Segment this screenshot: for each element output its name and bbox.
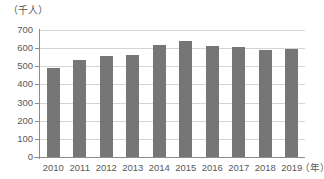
bar <box>47 68 60 157</box>
y-axis-tick-label: 200 <box>1 116 33 126</box>
y-axis-tick-mark <box>35 139 40 140</box>
x-axis-unit-label: （年） <box>300 162 324 173</box>
bar-chart: （千人） 0100200300400500600700 201020112012… <box>0 0 324 179</box>
bar <box>100 56 113 157</box>
y-axis-tick-label: 700 <box>1 25 33 35</box>
y-axis-tick-label-group: 0100200300400500600700 <box>0 0 33 179</box>
y-axis-tick-mark <box>35 84 40 85</box>
x-axis-tick-label-group: 2010201120122013201420152016201720182019 <box>40 162 305 176</box>
y-axis-tick-mark <box>35 66 40 67</box>
y-axis-tick-mark <box>35 121 40 122</box>
bar <box>179 41 192 157</box>
y-axis-tick-label: 300 <box>1 98 33 108</box>
bar <box>232 47 245 157</box>
y-axis-tick-label: 400 <box>1 79 33 89</box>
y-axis-tick-label: 100 <box>1 134 33 144</box>
y-axis-tick-label: 0 <box>1 152 33 162</box>
bar <box>259 50 272 157</box>
y-axis-tick-label: 600 <box>1 43 33 53</box>
bar <box>285 49 298 157</box>
bar <box>206 46 219 157</box>
x-axis-line <box>34 157 305 158</box>
y-axis-tick-mark <box>35 103 40 104</box>
bar <box>126 55 139 157</box>
gridline <box>40 30 305 31</box>
y-axis-tick-label: 500 <box>1 61 33 71</box>
bar <box>153 45 166 157</box>
plot-area <box>40 30 305 157</box>
y-axis-tick-mark <box>35 48 40 49</box>
bar <box>73 60 86 157</box>
